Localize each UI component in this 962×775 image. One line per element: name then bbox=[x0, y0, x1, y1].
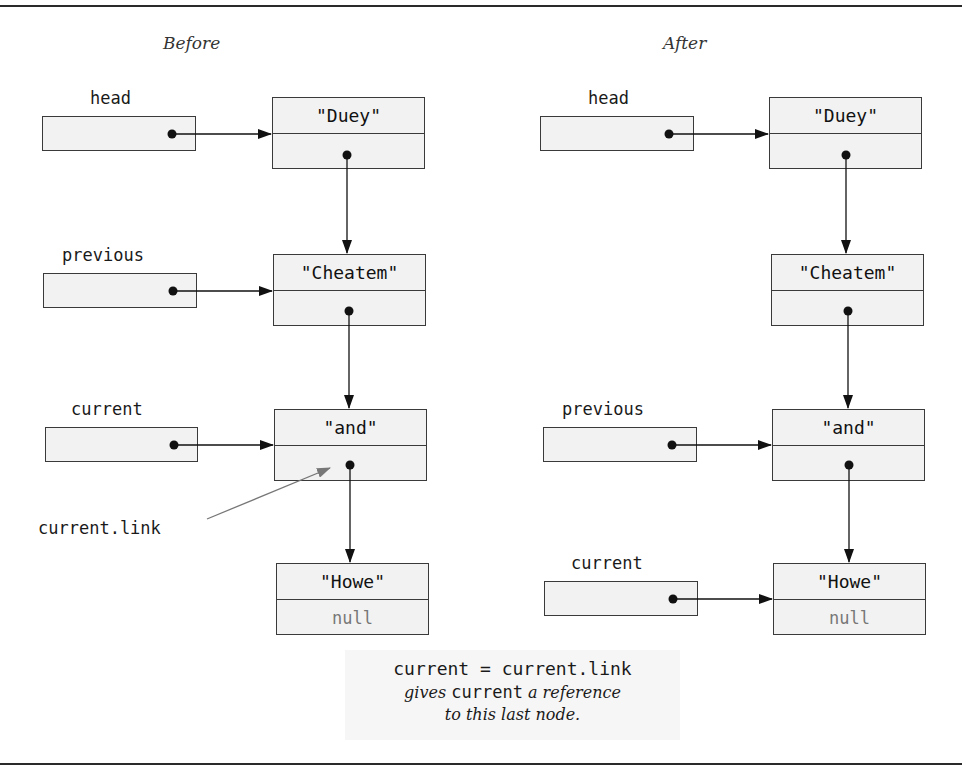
caption-box: current = current.link gives current a r… bbox=[345, 650, 680, 740]
caption-text: a reference bbox=[523, 683, 621, 702]
caption-code-inline: current bbox=[451, 682, 523, 702]
caption-line-2: to this last node. bbox=[345, 705, 680, 724]
caption-text: gives bbox=[404, 683, 451, 702]
caption-line-1: gives current a reference bbox=[345, 682, 680, 702]
caption-code: current = current.link bbox=[345, 658, 680, 679]
